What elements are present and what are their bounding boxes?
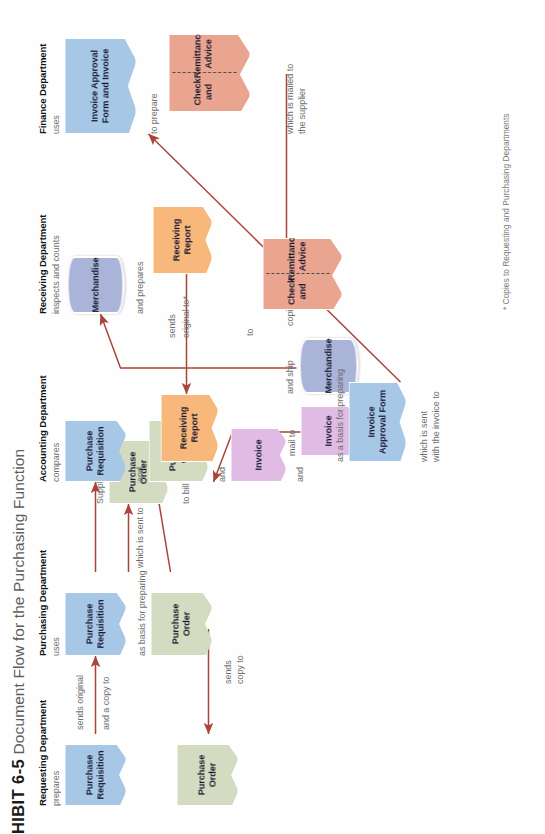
label-rec-sends: sends — [166, 314, 178, 338]
document-finance-check-and-remittance-advice[interactable]: Check and Remittance Advice — [168, 34, 250, 112]
doc-label: Invoice — [253, 440, 264, 471]
label-acc-as-basis-for-preparing: as a basis for preparing — [334, 369, 346, 462]
lane-header-receiving: Receiving Department — [36, 215, 47, 314]
document-supplier-check-and-remittance-advice[interactable]: Check and Remittance Advice — [262, 238, 342, 310]
label-req-prepares: prepares — [50, 771, 62, 806]
document-receiving-receiving-report[interactable]: Receiving Report — [152, 206, 212, 274]
doc-label: Purchase Requisition — [84, 596, 106, 652]
label-acc-compares: compares — [50, 443, 62, 482]
rotated-page-wrapper: HIBIT 6-5 Document Flow for the Purchasi… — [0, 0, 545, 834]
label-rec-inspects-and-counts: inspects and counts — [50, 235, 62, 314]
document-requesting-purchase-requisition[interactable]: Purchase Requisition — [64, 744, 126, 806]
doc-label: Invoice Approval Form — [366, 386, 388, 458]
label-supplier-and-ship: and ship — [284, 360, 296, 394]
doc-label: Purchase Requisition — [84, 424, 106, 478]
doc-label-remittance: Remittance Advice — [263, 239, 330, 274]
doc-label: Purchase Order — [170, 596, 192, 652]
document-supplier-invoice[interactable]: Invoice — [300, 406, 356, 456]
exhibit-title: HIBIT 6-5 Document Flow for the Purchasi… — [8, 449, 27, 834]
footnote: * Copies to Requesting and Purchasing De… — [500, 114, 510, 310]
wire-supplier-merch-to-rec-merch — [100, 314, 296, 368]
doc-label: Invoice — [323, 416, 334, 447]
label-acc-with-the-invoice-to: with the invoice to — [430, 391, 442, 462]
doc-label-check: Check and — [169, 73, 238, 111]
lane-header-accounting: Accounting Department — [36, 375, 47, 482]
label-acc-and-2: and — [216, 467, 228, 482]
label-pur-copy-to: copy to — [234, 655, 246, 684]
label-req-and-a-copy-to: and a copy to — [100, 677, 112, 730]
label-pur-which-is-sent-to: which is sent to — [134, 507, 146, 568]
lane-header-purchasing: Purchasing Department — [36, 550, 47, 656]
document-requesting-purchase-order[interactable]: Purchase Order — [176, 744, 238, 806]
exhibit-number: HIBIT 6-5 — [8, 759, 26, 834]
doc-label: Purchase Order — [196, 748, 218, 802]
lane-header-requesting: Requesting Department — [36, 700, 47, 806]
label-rec-and-prepares: and prepares — [134, 262, 146, 314]
label-fin-uses: uses — [50, 115, 62, 134]
doc-label: Purchase Requisition — [84, 748, 106, 802]
label-supplier-mail-to: mail to — [286, 430, 298, 456]
label-fin-which-is-mailed-to: which is mailed to — [284, 64, 296, 134]
doc-label: Merchandise — [90, 257, 101, 312]
label-fin-the-supplier: the supplier — [296, 88, 308, 134]
label-acc-and-1: and — [134, 467, 146, 482]
label-supplier-to: to — [244, 329, 256, 336]
document-accounting-receiving-report[interactable]: Receiving Report — [160, 394, 218, 462]
document-purchasing-purchase-order[interactable]: Purchase Order — [150, 592, 212, 656]
doc-label: Invoice Approval Form and Invoice — [89, 42, 111, 130]
doc-label-remittance: Remittance Advice — [169, 35, 238, 73]
label-req-sends-original: sends original — [74, 675, 86, 730]
doc-label: Merchandise — [323, 338, 334, 393]
label-pur-uses: uses — [50, 637, 62, 656]
doc-label: Receiving Report — [171, 210, 193, 270]
document-accounting-invoice-approval-form[interactable]: Invoice Approval Form — [348, 382, 406, 462]
document-accounting-purchase-requisition[interactable]: Purchase Requisition — [64, 420, 126, 482]
document-receiving-merchandise[interactable]: Merchandise — [66, 256, 124, 314]
lane-header-finance: Finance Department — [36, 44, 47, 134]
label-pur-sends: sends — [222, 660, 234, 684]
doc-label: Receiving Report — [178, 398, 200, 458]
label-pur-as-basis-for-preparing: as basis for preparing — [136, 571, 148, 656]
label-acc-which-is-sent: which is sent — [418, 411, 430, 462]
document-accounting-invoice[interactable]: Invoice — [230, 428, 286, 482]
document-purchasing-purchase-requisition[interactable]: Purchase Requisition — [64, 592, 126, 656]
exhibit-canvas: HIBIT 6-5 Document Flow for the Purchasi… — [0, 0, 545, 834]
exhibit-title-text: Document Flow for the Purchasing Functio… — [9, 449, 26, 755]
document-finance-invoice-approval-form-and-invoice[interactable]: Invoice Approval Form and Invoice — [64, 38, 136, 134]
label-fin-to-prepare: to prepare — [148, 93, 160, 134]
label-rec-original-to: original to* — [180, 296, 192, 338]
label-acc-and-3: and — [294, 467, 306, 482]
